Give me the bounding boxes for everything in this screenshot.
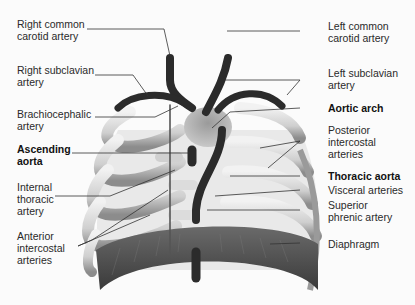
label-anterior-intercostal: Anterior intercostal arteries xyxy=(17,230,65,266)
label-left-common-carotid: Left common carotid artery xyxy=(328,20,389,44)
label-aortic-arch: Aortic arch xyxy=(328,102,383,114)
label-left-subclavian: Left subclavian artery xyxy=(328,67,398,91)
label-visceral-arteries: Visceral arteries xyxy=(328,184,403,196)
label-thoracic-aorta: Thoracic aorta xyxy=(328,170,400,182)
label-right-common-carotid: Right common carotid artery xyxy=(17,18,85,42)
thoracic-arteries-diagram: Right common carotid artery Right subcla… xyxy=(0,0,415,305)
label-diaphragm: Diaphragm xyxy=(328,238,379,250)
label-internal-thoracic: Internal thoracic artery xyxy=(17,181,54,217)
label-superior-phrenic: Superior phrenic artery xyxy=(328,199,392,223)
label-brachiocephalic: Brachiocephalic artery xyxy=(17,108,91,132)
label-ascending-aorta: Ascending aorta xyxy=(17,143,71,167)
label-right-subclavian: Right subclavian artery xyxy=(17,64,94,88)
label-posterior-intercostal: Posterior intercostal arteries xyxy=(328,124,376,160)
